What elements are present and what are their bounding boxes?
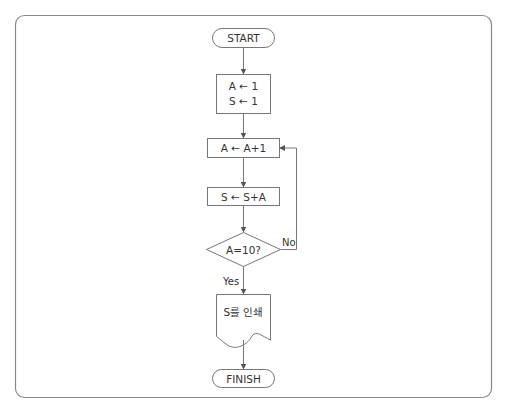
flowchart-canvas: START A ← 1 S ← 1 A ← A+1 S ← S+A A=10? … bbox=[0, 0, 507, 414]
sum-process-box: S ← S+A bbox=[208, 188, 280, 206]
init-line-a: A ← 1 bbox=[229, 80, 258, 92]
no-label: No bbox=[282, 237, 296, 248]
increment-process-box: A ← A+1 bbox=[208, 139, 280, 158]
condition-decision: A=10? bbox=[207, 233, 281, 267]
finish-label: FINISH bbox=[226, 373, 261, 385]
start-terminal: START bbox=[213, 29, 275, 48]
print-document-shape: S를 인쇄 bbox=[217, 295, 271, 348]
yes-label: Yes bbox=[222, 276, 239, 287]
diagram-frame bbox=[16, 16, 492, 398]
start-label: START bbox=[227, 32, 260, 44]
init-process-box: A ← 1 S ← 1 bbox=[217, 75, 271, 114]
print-label: S를 인쇄 bbox=[223, 306, 263, 318]
edge-no-loop bbox=[280, 148, 297, 250]
finish-terminal: FINISH bbox=[213, 370, 275, 388]
increment-label: A ← A+1 bbox=[221, 142, 266, 154]
init-line-s: S ← 1 bbox=[229, 95, 258, 107]
condition-label: A=10? bbox=[226, 244, 261, 256]
sum-label: S ← S+A bbox=[221, 191, 267, 203]
